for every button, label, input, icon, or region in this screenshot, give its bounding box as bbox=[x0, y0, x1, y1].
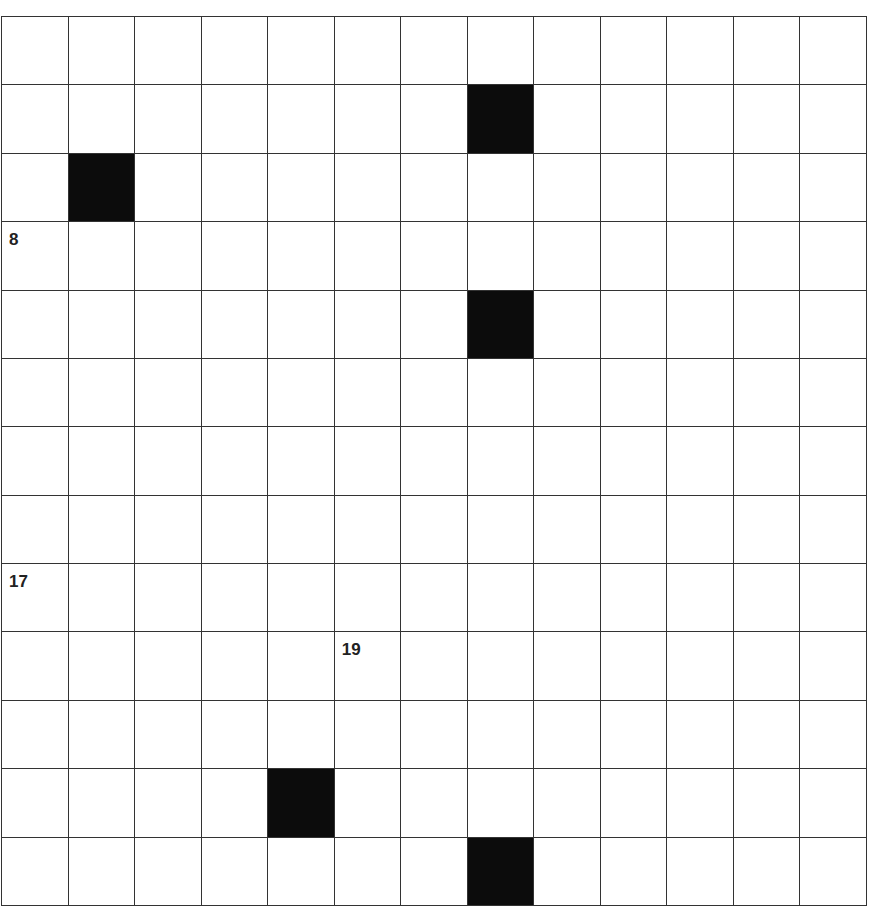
grid-cell[interactable] bbox=[69, 291, 136, 359]
grid-cell[interactable] bbox=[601, 838, 668, 906]
grid-cell[interactable] bbox=[335, 85, 402, 153]
grid-cell[interactable] bbox=[2, 85, 69, 153]
grid-cell[interactable] bbox=[268, 17, 335, 85]
grid-cell[interactable] bbox=[135, 291, 202, 359]
grid-cell[interactable] bbox=[800, 769, 867, 837]
grid-cell[interactable] bbox=[800, 17, 867, 85]
grid-cell[interactable] bbox=[135, 632, 202, 700]
grid-cell[interactable] bbox=[734, 769, 801, 837]
grid-cell[interactable] bbox=[69, 838, 136, 906]
grid-cell[interactable] bbox=[135, 85, 202, 153]
grid-cell[interactable] bbox=[335, 17, 402, 85]
grid-cell[interactable] bbox=[800, 838, 867, 906]
grid-cell[interactable] bbox=[601, 564, 668, 632]
grid-cell[interactable] bbox=[135, 154, 202, 222]
grid-cell[interactable] bbox=[667, 17, 734, 85]
grid-cell[interactable] bbox=[202, 359, 269, 427]
grid-cell[interactable] bbox=[800, 154, 867, 222]
grid-cell[interactable] bbox=[601, 17, 668, 85]
grid-cell[interactable] bbox=[534, 291, 601, 359]
grid-cell[interactable] bbox=[268, 359, 335, 427]
grid-cell[interactable] bbox=[734, 291, 801, 359]
grid-cell[interactable] bbox=[202, 154, 269, 222]
grid-cell[interactable] bbox=[534, 359, 601, 427]
grid-cell[interactable] bbox=[335, 496, 402, 564]
grid-cell[interactable] bbox=[401, 701, 468, 769]
grid-cell[interactable] bbox=[2, 701, 69, 769]
grid-cell[interactable] bbox=[135, 838, 202, 906]
grid-cell[interactable] bbox=[2, 496, 69, 564]
grid-cell[interactable] bbox=[534, 769, 601, 837]
grid-cell[interactable] bbox=[800, 564, 867, 632]
grid-cell[interactable] bbox=[2, 17, 69, 85]
grid-cell[interactable] bbox=[667, 496, 734, 564]
grid-cell[interactable] bbox=[667, 291, 734, 359]
grid-cell[interactable] bbox=[268, 222, 335, 290]
grid-cell[interactable] bbox=[268, 564, 335, 632]
grid-cell[interactable] bbox=[401, 222, 468, 290]
grid-cell[interactable] bbox=[601, 359, 668, 427]
grid-cell[interactable] bbox=[202, 427, 269, 495]
grid-cell[interactable] bbox=[335, 427, 402, 495]
grid-cell[interactable] bbox=[268, 85, 335, 153]
grid-cell[interactable] bbox=[268, 632, 335, 700]
grid-cell[interactable] bbox=[800, 359, 867, 427]
grid-cell[interactable] bbox=[468, 564, 535, 632]
grid-cell[interactable] bbox=[202, 291, 269, 359]
grid-cell[interactable] bbox=[601, 632, 668, 700]
grid-cell[interactable] bbox=[734, 427, 801, 495]
grid-cell[interactable] bbox=[335, 291, 402, 359]
grid-cell[interactable] bbox=[268, 701, 335, 769]
grid-cell[interactable] bbox=[800, 222, 867, 290]
grid-cell[interactable] bbox=[401, 359, 468, 427]
grid-cell[interactable] bbox=[135, 17, 202, 85]
grid-cell[interactable] bbox=[468, 632, 535, 700]
grid-cell[interactable] bbox=[401, 427, 468, 495]
grid-cell[interactable] bbox=[734, 85, 801, 153]
grid-cell[interactable] bbox=[135, 701, 202, 769]
grid-cell[interactable] bbox=[69, 359, 136, 427]
grid-cell[interactable] bbox=[268, 291, 335, 359]
grid-cell[interactable] bbox=[268, 496, 335, 564]
grid-cell[interactable] bbox=[401, 564, 468, 632]
grid-cell[interactable] bbox=[69, 632, 136, 700]
grid-cell[interactable] bbox=[202, 496, 269, 564]
grid-cell[interactable] bbox=[202, 838, 269, 906]
grid-cell[interactable] bbox=[335, 769, 402, 837]
grid-cell[interactable] bbox=[534, 496, 601, 564]
grid-cell[interactable] bbox=[69, 222, 136, 290]
grid-cell[interactable] bbox=[800, 85, 867, 153]
grid-cell[interactable] bbox=[135, 564, 202, 632]
grid-cell[interactable] bbox=[601, 701, 668, 769]
grid-cell[interactable] bbox=[667, 85, 734, 153]
grid-cell[interactable] bbox=[268, 154, 335, 222]
grid-cell[interactable] bbox=[667, 564, 734, 632]
grid-cell[interactable] bbox=[202, 222, 269, 290]
grid-cell[interactable] bbox=[135, 427, 202, 495]
grid-cell[interactable] bbox=[734, 632, 801, 700]
grid-cell[interactable] bbox=[468, 496, 535, 564]
grid-cell[interactable] bbox=[2, 291, 69, 359]
grid-cell[interactable] bbox=[800, 496, 867, 564]
grid-cell[interactable] bbox=[69, 85, 136, 153]
grid-cell[interactable] bbox=[69, 17, 136, 85]
grid-cell[interactable] bbox=[534, 222, 601, 290]
grid-cell[interactable] bbox=[335, 154, 402, 222]
grid-cell[interactable] bbox=[734, 701, 801, 769]
grid-cell[interactable] bbox=[468, 769, 535, 837]
grid-cell[interactable] bbox=[202, 701, 269, 769]
grid-cell[interactable] bbox=[2, 154, 69, 222]
grid-cell[interactable] bbox=[135, 496, 202, 564]
grid-cell[interactable] bbox=[401, 496, 468, 564]
grid-cell[interactable] bbox=[202, 17, 269, 85]
grid-cell[interactable] bbox=[800, 632, 867, 700]
grid-cell[interactable] bbox=[401, 154, 468, 222]
grid-cell[interactable] bbox=[69, 427, 136, 495]
grid-cell[interactable] bbox=[2, 427, 69, 495]
grid-cell[interactable] bbox=[667, 838, 734, 906]
grid-cell[interactable] bbox=[268, 427, 335, 495]
grid-cell[interactable] bbox=[534, 632, 601, 700]
grid-cell[interactable] bbox=[335, 222, 402, 290]
grid-cell[interactable] bbox=[534, 564, 601, 632]
grid-cell[interactable] bbox=[2, 632, 69, 700]
